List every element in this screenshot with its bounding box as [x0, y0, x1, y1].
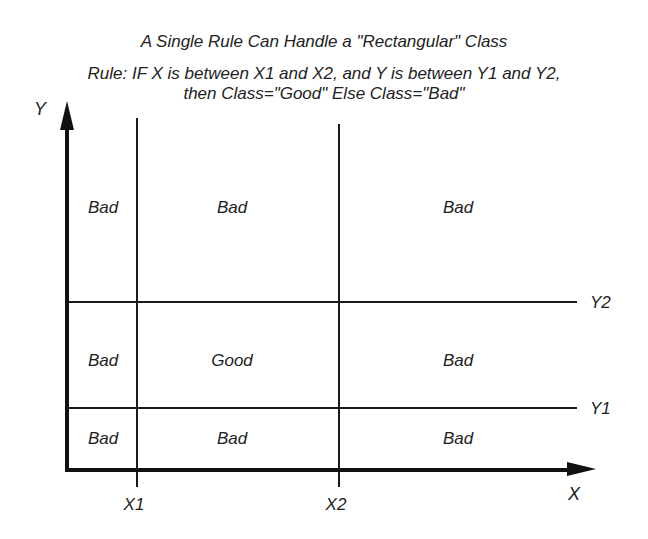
- cell-middle-right: Bad: [443, 351, 474, 370]
- y2-label: Y2: [590, 293, 611, 312]
- x-axis-label: X: [567, 484, 581, 504]
- cell-top-left: Bad: [88, 198, 119, 217]
- rule-diagram: Y X X1 X2 Y2 Y1 Bad Bad Bad Bad Good Bad…: [0, 0, 648, 539]
- y1-label: Y1: [590, 399, 611, 418]
- x2-label: X2: [325, 495, 347, 514]
- cell-bottom-right: Bad: [443, 429, 474, 448]
- cell-bottom-middle: Bad: [217, 429, 248, 448]
- cell-bottom-left: Bad: [88, 429, 119, 448]
- cell-top-middle: Bad: [217, 198, 248, 217]
- y-axis-arrow-icon: [60, 101, 74, 130]
- y-axis-label: Y: [34, 99, 48, 119]
- cell-middle-left: Bad: [88, 351, 119, 370]
- x1-label: X1: [123, 495, 145, 514]
- cell-top-right: Bad: [443, 198, 474, 217]
- cell-middle-good: Good: [211, 351, 253, 370]
- x-axis-arrow-icon: [567, 462, 596, 476]
